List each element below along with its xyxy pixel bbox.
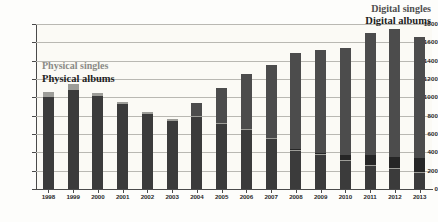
bar-2001 [117, 102, 128, 189]
x-axis-tick-label-2006: 2006 [234, 193, 258, 200]
segment-physical-albums [191, 117, 202, 189]
segment-digital-singles [266, 65, 277, 138]
y-axis-tick-mark [32, 189, 36, 190]
y-axis-tick-mark [32, 171, 36, 172]
x-axis-tick-label-2004: 2004 [185, 193, 209, 200]
segment-physical-albums [216, 124, 227, 189]
segment-digital-singles [414, 37, 425, 158]
x-axis-tick-label-2010: 2010 [333, 193, 357, 200]
x-axis-tick-label-2013: 2013 [408, 193, 432, 200]
y-axis-tick-mark [32, 42, 36, 43]
segment-physical-albums [266, 139, 277, 189]
x-axis-tick-label-2001: 2001 [111, 193, 135, 200]
bar-2012 [389, 29, 400, 189]
segment-digital-singles [191, 103, 202, 116]
legend-digital-albums: Digital albums [365, 15, 431, 26]
x-axis-line [36, 189, 433, 190]
y-axis-tick-mark [32, 79, 36, 80]
x-axis-tick-label-2009: 2009 [309, 193, 333, 200]
segment-digital-singles [216, 88, 227, 123]
y-axis-tick-mark [32, 134, 36, 135]
segment-physical-albums [43, 97, 54, 189]
segment-digital-albums [414, 158, 425, 172]
segment-physical-albums [290, 151, 301, 190]
bar-2013 [414, 37, 425, 189]
bar-2006 [241, 74, 252, 189]
x-axis-tick-label-2008: 2008 [284, 193, 308, 200]
segment-physical-albums [92, 96, 103, 189]
x-axis-tick-label-2005: 2005 [210, 193, 234, 200]
segment-physical-albums [389, 169, 400, 189]
segment-physical-albums [167, 121, 178, 189]
x-axis-tick-label-2000: 2000 [86, 193, 110, 200]
bar-2011 [365, 33, 376, 189]
stacked-bar-chart: 020040060080010001200140016001800 199819… [0, 0, 438, 222]
segment-physical-albums [315, 155, 326, 189]
segment-digital-singles [340, 48, 351, 155]
segment-digital-singles [315, 50, 326, 153]
segment-digital-albums [389, 157, 400, 168]
bar-2008 [290, 53, 301, 189]
bar-1999 [68, 84, 79, 189]
x-axis-tick-label-2002: 2002 [135, 193, 159, 200]
y-axis-tick-mark [32, 152, 36, 153]
segment-physical-albums [365, 166, 376, 189]
bar-1998 [43, 92, 54, 189]
y-axis-tick-mark [32, 97, 36, 98]
y-axis-tick-mark [32, 116, 36, 117]
bar-2003 [167, 119, 178, 189]
segment-physical-albums [340, 161, 351, 189]
segment-digital-singles [365, 33, 376, 154]
segment-digital-singles [241, 74, 252, 129]
bar-2009 [315, 50, 326, 189]
segment-physical-albums [142, 114, 153, 189]
x-axis-tick-label-1999: 1999 [61, 193, 85, 200]
x-axis-tick-label-2007: 2007 [259, 193, 283, 200]
y-axis-tick-mark [32, 61, 36, 62]
legend-digital-singles: Digital singles [371, 3, 431, 14]
segment-digital-singles [290, 53, 301, 149]
segment-physical-albums [68, 90, 79, 189]
x-axis-tick-label-2011: 2011 [358, 193, 382, 200]
x-axis-tick-label-1998: 1998 [36, 193, 60, 200]
legend-physical-albums: Physical albums [42, 73, 115, 84]
x-axis-tick-label-2003: 2003 [160, 193, 184, 200]
y-axis-tick-mark [32, 24, 36, 25]
bar-2010 [340, 48, 351, 189]
bar-2005 [216, 88, 227, 189]
bar-2007 [266, 65, 277, 189]
segment-digital-singles [389, 29, 400, 157]
segment-physical-albums [117, 104, 128, 189]
segment-physical-albums [414, 173, 425, 190]
bar-2002 [142, 112, 153, 189]
legend-physical-singles: Physical singles [42, 60, 108, 71]
segment-digital-albums [365, 155, 376, 165]
bar-2000 [92, 93, 103, 189]
bar-2004 [191, 103, 202, 189]
x-axis-tick-label-2012: 2012 [383, 193, 407, 200]
y-axis-line [36, 24, 37, 190]
segment-physical-albums [241, 130, 252, 189]
